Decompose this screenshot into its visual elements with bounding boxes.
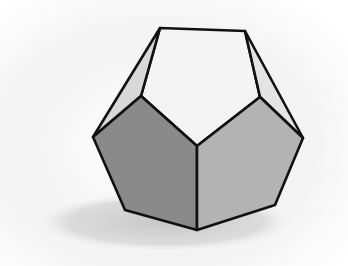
dodecahedron-illustration xyxy=(0,0,348,266)
